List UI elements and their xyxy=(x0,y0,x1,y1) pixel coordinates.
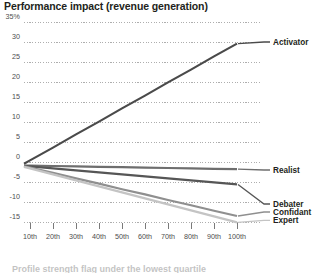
x-axis-tick-label: 20th xyxy=(46,232,60,241)
chart-container: Performance impact (revenue generation) … xyxy=(0,0,319,273)
x-axis-tick-label: 50th xyxy=(115,232,129,241)
y-axis-tick-label: 30 xyxy=(12,32,20,41)
y-axis-tick-label: 10 xyxy=(12,112,20,121)
gridlines-group xyxy=(24,22,262,222)
y-axis-tick-label: 35% xyxy=(6,14,21,21)
series-line-confidant xyxy=(24,166,237,216)
x-axis-tick-label: 60th xyxy=(138,232,152,241)
legend-label-expert: Expert xyxy=(273,216,299,225)
x-axis-tick-label: 10th xyxy=(23,232,37,241)
x-axis-tick-label: 90th xyxy=(207,232,221,241)
x-axis-ticks-group xyxy=(30,223,237,229)
y-axis-tick-label: -15 xyxy=(10,212,20,221)
chart-caption: Profile strength flag under the lowest q… xyxy=(12,264,206,273)
y-axis-tick-label: 15 xyxy=(12,92,20,101)
legend-leader-debater xyxy=(238,184,270,204)
y-axis-tick-label: 0 xyxy=(16,152,20,161)
x-axis-tick-label: 30th xyxy=(69,232,83,241)
x-axis-tick-label: 80th xyxy=(184,232,198,241)
y-axis-tick-label: 5 xyxy=(16,132,20,141)
y-axis-tick-label: -5 xyxy=(14,172,20,181)
y-axis-tick-label: 20 xyxy=(12,72,20,81)
data-series-group xyxy=(24,44,237,223)
chart-svg: -15-10-505101520253035% 10th20th30th40th… xyxy=(0,14,319,264)
series-line-activator xyxy=(24,44,237,164)
legend-leader-confidant xyxy=(238,212,270,216)
legend-group: ActivatorRealistDebaterConfidantExpert xyxy=(238,38,311,225)
legend-label-activator: Activator xyxy=(273,38,309,47)
x-axis-labels-group: 10th20th30th40th50th60th70th80th90th100t… xyxy=(23,232,246,241)
x-axis-tick-label: 40th xyxy=(92,232,106,241)
x-axis-tick-label: 100th xyxy=(228,232,246,241)
x-axis-tick-label: 70th xyxy=(161,232,175,241)
plot-area: -15-10-505101520253035% 10th20th30th40th… xyxy=(0,14,319,254)
y-axis-labels-group: -15-10-505101520253035% xyxy=(6,14,21,221)
chart-title: Performance impact (revenue generation) xyxy=(4,0,208,12)
y-axis-tick-label: -10 xyxy=(10,192,20,201)
legend-label-realist: Realist xyxy=(273,166,300,175)
legend-leader-realist xyxy=(238,169,270,170)
y-axis-tick-label: 25 xyxy=(12,52,20,61)
